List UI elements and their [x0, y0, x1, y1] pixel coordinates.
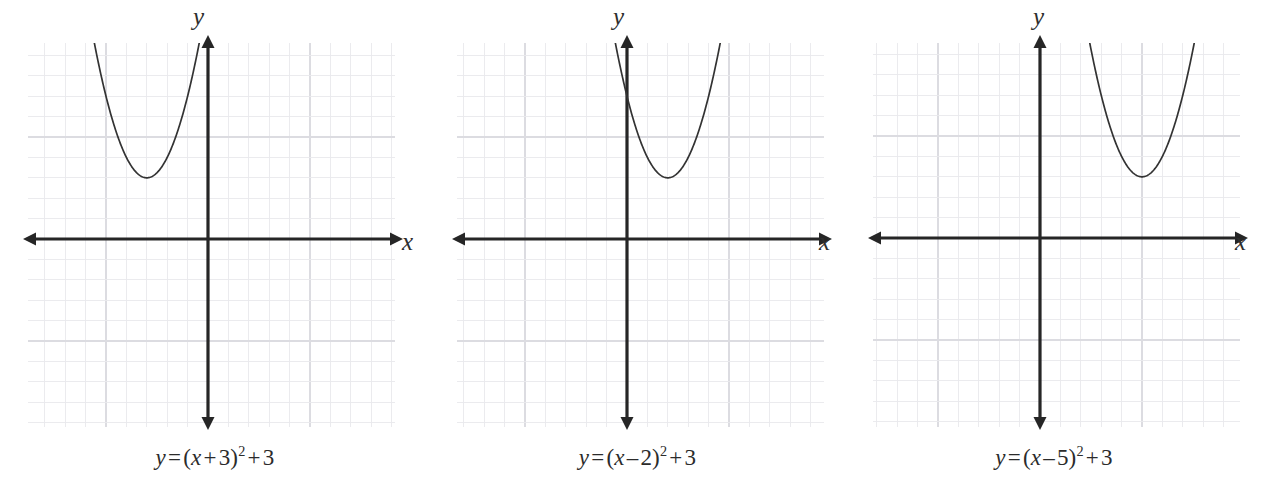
- graph-3-canvas: [845, 0, 1263, 440]
- eq3-lhs: y: [995, 445, 1005, 470]
- x-axis-label: x: [819, 228, 830, 256]
- eq2-close-paren: ): [652, 445, 660, 470]
- eq2-inner-op: –: [625, 445, 641, 470]
- eq1-inner-var: x: [191, 445, 201, 470]
- grid-lines-3: [873, 43, 1240, 427]
- eq1-outer-const: 3: [263, 445, 275, 470]
- eq1-open-paren: (: [183, 445, 191, 470]
- eq1-inner-const: 3: [219, 445, 231, 470]
- equation-label-2: y=(x–2)2+3: [430, 443, 845, 471]
- eq3-inner-var: x: [1031, 445, 1041, 470]
- eq3-inner-op: –: [1041, 445, 1057, 470]
- eq3-exponent: 2: [1076, 443, 1083, 459]
- eq1-inner-op: +: [201, 445, 218, 470]
- eq2-lhs: y: [579, 445, 589, 470]
- x-axis-label: x: [402, 228, 413, 256]
- graph-panel-1: y x y=(x+3)2+3: [0, 0, 430, 497]
- eq1-equals: =: [166, 445, 183, 470]
- eq1-exponent: 2: [238, 443, 245, 459]
- eq1-lhs: y: [156, 445, 166, 470]
- grid-lines-1: [28, 43, 395, 427]
- graph-panel-2: y x y=(x–2)2+3: [430, 0, 845, 497]
- y-axis-label: y: [1033, 3, 1044, 31]
- axes-1: [23, 35, 403, 430]
- x-axis-label: x: [1235, 228, 1246, 256]
- graph-panel-3: y x y=(x–5)2+3: [845, 0, 1263, 497]
- y-axis-label: y: [193, 3, 204, 31]
- y-axis-label: y: [613, 3, 624, 31]
- eq3-outer-const: 3: [1101, 445, 1113, 470]
- axes-2: [452, 35, 832, 430]
- eq3-open-paren: (: [1023, 445, 1031, 470]
- eq1-outer-op: +: [246, 445, 263, 470]
- graph-1-canvas: [0, 0, 430, 440]
- parabola-figure: y x y=(x+3)2+3 y x y=(x–2)2+3: [0, 0, 1263, 497]
- axes-3: [868, 35, 1248, 430]
- eq2-inner-const: 2: [640, 445, 652, 470]
- eq3-outer-op: +: [1084, 445, 1101, 470]
- eq2-outer-const: 3: [684, 445, 696, 470]
- equation-label-3: y=(x–5)2+3: [845, 443, 1263, 471]
- eq2-inner-var: x: [614, 445, 624, 470]
- grid-lines-2: [457, 43, 824, 427]
- eq2-equals: =: [589, 445, 606, 470]
- eq3-equals: =: [1006, 445, 1023, 470]
- graph-2-canvas: [430, 0, 845, 440]
- equation-label-1: y=(x+3)2+3: [0, 443, 430, 471]
- eq2-outer-op: +: [667, 445, 684, 470]
- eq3-inner-const: 5: [1057, 445, 1069, 470]
